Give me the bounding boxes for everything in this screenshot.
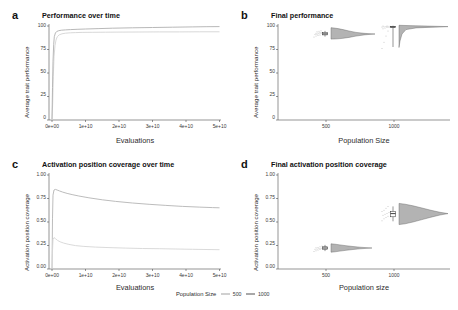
- panel-c-xtick-2: 2e+10: [105, 274, 133, 279]
- panel-d-violin-1000: [399, 203, 448, 224]
- legend-item-1000[interactable]: 1000: [246, 291, 269, 297]
- legend-swatch-1000: [246, 293, 255, 294]
- panel-a-letter: a: [12, 10, 18, 21]
- panel-d-plot: [278, 173, 450, 271]
- panel-d-group-1000: [382, 203, 449, 224]
- panel-d-ytick-025: 0.25: [255, 242, 275, 247]
- panel-d-ytick-100: 1.00: [255, 173, 275, 178]
- panel-d-ylabel: Activation position coverage: [252, 194, 259, 271]
- panel-a-series-1000: [52, 27, 220, 119]
- panel-c-series-1000: [52, 189, 220, 269]
- panel-c-xtick-0: 0e+00: [38, 274, 66, 279]
- panel-b-title: Final performance: [271, 12, 333, 19]
- panel-d-letter: d: [241, 159, 248, 170]
- panel-d: d Final activation position coverage Act…: [229, 155, 458, 285]
- panel-d-xtick-1000: 1000: [380, 274, 408, 279]
- panel-a-ytick-50: 50: [30, 70, 46, 75]
- panel-b-ylabel: Average trait performance: [252, 47, 259, 118]
- panel-c-ytick-100: 1.00: [26, 173, 46, 178]
- panel-a-title: Performance over time: [42, 12, 120, 19]
- panel-a-xtick-1: 1e+10: [72, 125, 100, 130]
- panel-a-xtick-3: 3e+10: [139, 125, 167, 130]
- figure-canvas: a Performance over time Average trait pe…: [0, 0, 458, 310]
- panel-b-ytick-100: 100: [259, 24, 275, 29]
- panel-b-ytick-0: 0: [259, 116, 275, 121]
- panel-c-plot: [49, 173, 221, 271]
- panel-c-ytick-000: 0.00: [26, 265, 46, 270]
- panel-b-ytick-50: 50: [259, 70, 275, 75]
- panel-a-series-500: [52, 32, 220, 120]
- legend-label-500: 500: [233, 291, 242, 297]
- panel-a-ylabel: Average trait performance: [23, 47, 30, 118]
- panel-c-series-500: [52, 238, 220, 269]
- legend-swatch-500: [221, 293, 230, 294]
- legend-item-500[interactable]: 500: [221, 291, 241, 297]
- panel-c-xtick-1: 1e+10: [72, 274, 100, 279]
- panel-a-xtick-4: 4e+10: [172, 125, 200, 130]
- panel-b-plot: [278, 24, 450, 122]
- panel-c-ytick-025: 0.25: [26, 242, 46, 247]
- panel-a-ytick-0: 0: [30, 116, 46, 121]
- panel-d-title: Final activation position coverage: [271, 161, 387, 168]
- panel-d-xtick-500: 500: [312, 274, 340, 279]
- panel-b-group-1000: [382, 25, 449, 49]
- panel-a-plot: [49, 24, 221, 122]
- panel-b-xlabel: Population Size: [278, 136, 450, 145]
- panel-a-xlabel: Evaluations: [49, 136, 221, 145]
- panel-c-ylabel: Activation position coverage: [23, 194, 30, 271]
- panel-b-violin-500: [331, 28, 375, 39]
- panel-c-title: Activation position coverage over time: [42, 161, 174, 168]
- panel-a-ytick-100: 100: [30, 24, 46, 29]
- panel-c-letter: c: [12, 159, 18, 170]
- panel-d-ytick-000: 0.00: [255, 265, 275, 270]
- panel-a-ytick-25: 25: [30, 93, 46, 98]
- figure-legend: Population Size 500 1000: [176, 291, 270, 297]
- panel-a-xtick-2: 2e+10: [105, 125, 133, 130]
- panel-a-ytick-75: 75: [30, 47, 46, 52]
- panel-c-xtick-4: 4e+10: [172, 274, 200, 279]
- panel-d-violin-500: [331, 244, 372, 252]
- panel-b-xtick-500: 500: [312, 125, 340, 130]
- panel-b-violin-1000: [399, 25, 448, 47]
- panel-c-ytick-075: 0.75: [26, 196, 46, 201]
- legend-label-1000: 1000: [258, 291, 270, 297]
- panel-a-xtick-0: 0e+00: [38, 125, 66, 130]
- panel-c-ytick-050: 0.50: [26, 219, 46, 224]
- panel-d-ytick-075: 0.75: [255, 196, 275, 201]
- panel-c: c Activation position coverage over time…: [0, 155, 229, 285]
- panel-d-group-500: [314, 244, 373, 252]
- panel-a: a Performance over time Average trait pe…: [0, 0, 229, 155]
- legend-title: Population Size: [176, 291, 216, 297]
- panel-b: b Final performance Average trait perfor…: [229, 0, 458, 155]
- panel-d-xlabel: Population size: [278, 283, 450, 292]
- panel-c-xtick-3: 3e+10: [139, 274, 167, 279]
- panel-b-ytick-75: 75: [259, 47, 275, 52]
- panel-b-ytick-25: 25: [259, 93, 275, 98]
- panel-b-letter: b: [241, 10, 248, 21]
- panel-d-ytick-050: 0.50: [255, 219, 275, 224]
- panel-b-xtick-1000: 1000: [380, 125, 408, 130]
- panel-b-group-500: [314, 28, 376, 39]
